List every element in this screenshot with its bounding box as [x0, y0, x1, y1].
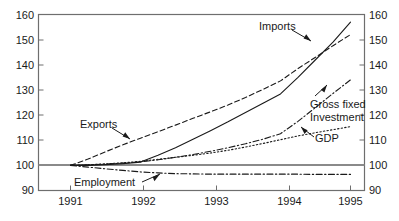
series-label-imports: Imports [259, 20, 296, 32]
y-tick-right-140: 140 [369, 59, 387, 71]
y-axis-left-ticks [39, 40, 44, 140]
gross-fixed-investment-leader-arrowhead [321, 85, 327, 92]
series-label-employment: Employment [74, 176, 135, 188]
y-tick-left-140: 140 [16, 59, 34, 71]
y-tick-right-150: 150 [369, 34, 387, 46]
annotation-leaders [112, 30, 327, 182]
series-label-gdp: GDP [315, 132, 339, 144]
y-tick-left-150: 150 [16, 34, 34, 46]
series-label-exports: Exports [80, 118, 118, 130]
series-layer [71, 22, 351, 174]
series-line-employment [71, 165, 351, 174]
y-tick-left-110: 110 [16, 134, 34, 146]
x-tick-1992: 1992 [131, 195, 155, 207]
y-tick-left-120: 120 [16, 109, 34, 121]
x-tick-1991: 1991 [58, 195, 82, 207]
x-tick-1994: 1994 [277, 195, 301, 207]
series-label-gross-fixed: Gross fixed [310, 98, 366, 110]
y-tick-right-90: 90 [369, 184, 381, 196]
y-tick-right-130: 130 [369, 84, 387, 96]
imports-leader-arrowhead [304, 34, 311, 41]
y-tick-left-160: 160 [16, 9, 34, 21]
line-chart: 160 150 140 130 120 110 100 90 160 150 1… [0, 0, 399, 221]
x-tick-1995: 1995 [338, 195, 362, 207]
y-tick-left-90: 90 [22, 184, 34, 196]
y-tick-right-160: 160 [369, 9, 387, 21]
y-axis-left-labels: 160 150 140 130 120 110 100 90 [16, 9, 34, 196]
chart-canvas: 160 150 140 130 120 110 100 90 160 150 1… [0, 0, 399, 221]
series-label-investment: Investment [310, 111, 364, 123]
series-line-exports [71, 35, 351, 166]
y-tick-left-100: 100 [16, 159, 34, 171]
y-axis-right-ticks [360, 40, 365, 140]
x-axis-labels: 1991 1992 1993 1994 1995 [58, 195, 362, 207]
y-tick-left-130: 130 [16, 84, 34, 96]
y-tick-right-100: 100 [369, 159, 387, 171]
y-axis-right-labels: 160 150 140 130 120 110 100 90 [369, 9, 387, 196]
y-tick-right-110: 110 [369, 134, 387, 146]
series-line-imports [71, 22, 351, 165]
y-tick-right-120: 120 [369, 109, 387, 121]
exports-leader-arrowhead [123, 132, 130, 139]
x-tick-1993: 1993 [204, 195, 228, 207]
gdp-leader-arrowhead [301, 127, 308, 134]
